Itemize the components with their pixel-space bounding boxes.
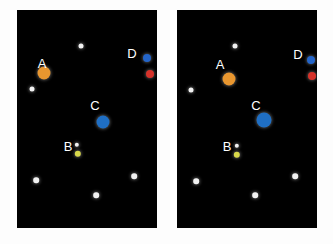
star-dot[interactable] — [189, 88, 194, 93]
point-d-blue[interactable] — [143, 54, 151, 62]
left-star-field[interactable]: ADCB — [17, 10, 157, 228]
point-d-red[interactable] — [308, 72, 316, 80]
point-label-d: D — [127, 47, 136, 60]
point-label-a: A — [216, 58, 225, 71]
point-d-blue[interactable] — [307, 56, 315, 64]
point-label-b: B — [223, 140, 232, 153]
star-dot[interactable] — [292, 173, 298, 179]
point-c-blue[interactable] — [97, 116, 110, 129]
star-dot[interactable] — [30, 87, 35, 92]
star-dot[interactable] — [75, 143, 79, 147]
star-dot[interactable] — [252, 192, 258, 198]
point-label-d: D — [293, 48, 302, 61]
point-d-red[interactable] — [146, 70, 154, 78]
point-c-blue[interactable] — [257, 113, 272, 128]
star-dot[interactable] — [93, 192, 99, 198]
point-label-a: A — [38, 57, 47, 70]
point-label-b: B — [64, 140, 73, 153]
image-canvas: ADCBADCB — [0, 0, 333, 244]
point-label-c: C — [90, 99, 99, 112]
star-dot[interactable] — [235, 144, 239, 148]
star-dot[interactable] — [33, 177, 39, 183]
star-dot[interactable] — [233, 44, 238, 49]
star-dot[interactable] — [193, 178, 199, 184]
point-a-orange[interactable] — [223, 73, 236, 86]
star-dot[interactable] — [79, 44, 84, 49]
star-dot[interactable] — [131, 173, 137, 179]
point-b-yellow[interactable] — [234, 152, 240, 158]
point-b-yellow[interactable] — [75, 151, 81, 157]
right-star-field[interactable]: ADCB — [177, 10, 317, 228]
point-label-c: C — [251, 99, 260, 112]
